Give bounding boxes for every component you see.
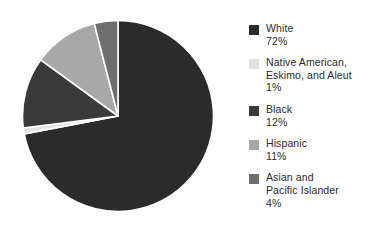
legend-value-black: 12% <box>266 116 292 129</box>
legend-label-white: White <box>266 22 293 35</box>
pie-chart-figure: White 72% Native American, Eskimo, and A… <box>0 0 384 240</box>
legend-text-native-american: Native American, Eskimo, and Aleut 1% <box>266 56 352 94</box>
chart-legend: White 72% Native American, Eskimo, and A… <box>249 22 381 218</box>
legend-item-hispanic[interactable]: Hispanic 11% <box>249 137 381 162</box>
legend-text-white: White 72% <box>266 22 293 47</box>
legend-text-hispanic: Hispanic 11% <box>266 137 307 162</box>
legend-item-asian-pacific-islander[interactable]: Asian and Pacific Islander 4% <box>249 171 381 209</box>
legend-swatch-icon-native-american <box>249 59 259 69</box>
pie-slice-group <box>22 21 213 212</box>
legend-label-black: Black <box>266 103 292 116</box>
legend-swatch-icon-hispanic <box>249 140 259 150</box>
legend-swatch-icon-black <box>249 106 259 116</box>
legend-label-asian-pacific-islander: Asian and Pacific Islander <box>266 171 339 196</box>
legend-item-black[interactable]: Black 12% <box>249 103 381 128</box>
legend-swatch-icon-asian-pacific-islander <box>249 174 259 184</box>
legend-label-native-american: Native American, Eskimo, and Aleut <box>266 56 352 81</box>
legend-item-native-american[interactable]: Native American, Eskimo, and Aleut 1% <box>249 56 381 94</box>
legend-item-white[interactable]: White 72% <box>249 22 381 47</box>
legend-label-hispanic: Hispanic <box>266 137 307 150</box>
pie-chart-svg <box>22 20 214 212</box>
legend-value-white: 72% <box>266 35 293 48</box>
legend-swatch-icon-white <box>249 25 259 35</box>
legend-value-asian-pacific-islander: 4% <box>266 197 339 210</box>
legend-value-hispanic: 11% <box>266 150 307 163</box>
pie-chart-plot-area <box>22 20 214 212</box>
legend-text-asian-pacific-islander: Asian and Pacific Islander 4% <box>266 171 339 209</box>
legend-value-native-american: 1% <box>266 81 352 94</box>
legend-text-black: Black 12% <box>266 103 292 128</box>
